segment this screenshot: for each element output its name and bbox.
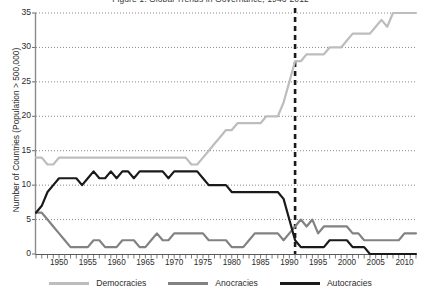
legend-label: Autocracies <box>327 278 372 288</box>
x-tick-label-1960: 1960 <box>107 258 125 267</box>
x-tick-label-2005: 2005 <box>367 258 385 267</box>
data-series <box>36 13 416 254</box>
chart-legend: DemocraciesAnocraciesAutocracies <box>0 272 421 294</box>
x-tick-label-2000: 2000 <box>338 258 356 267</box>
legend-anocracies[interactable]: Anocracies <box>168 278 258 288</box>
x-tick-label-1980: 1980 <box>223 258 241 267</box>
plot-area <box>0 0 421 295</box>
legend-autocracies[interactable]: Autocracies <box>280 278 372 288</box>
x-tick-label-1985: 1985 <box>251 258 269 267</box>
governance-trends-chart: Figure 1. Global Trends in Governance, 1… <box>0 0 421 295</box>
legend-democracies[interactable]: Democracies <box>49 278 146 288</box>
y-gridlines <box>36 13 416 220</box>
x-tick-label-2010: 2010 <box>395 258 413 267</box>
series-line-anocracies <box>36 213 416 247</box>
x-tick-label-1965: 1965 <box>136 258 154 267</box>
x-tick-label-1970: 1970 <box>165 258 183 267</box>
x-tick-label-1995: 1995 <box>309 258 327 267</box>
legend-label: Anocracies <box>215 278 258 288</box>
legend-swatch-icon <box>280 282 320 285</box>
series-line-democracies <box>36 13 416 164</box>
legend-swatch-icon <box>49 282 89 285</box>
legend-label: Democracies <box>96 278 146 288</box>
x-tick-label-1955: 1955 <box>79 258 97 267</box>
x-tick-label-1975: 1975 <box>194 258 212 267</box>
legend-swatch-icon <box>168 282 208 285</box>
x-tick-label-1950: 1950 <box>50 258 68 267</box>
x-tick-label-1990: 1990 <box>280 258 298 267</box>
